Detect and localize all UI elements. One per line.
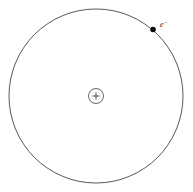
electron-dot-icon: [150, 27, 156, 33]
nucleus-group: [89, 89, 104, 104]
diagram-canvas: e−: [0, 0, 193, 192]
bohr-atom-diagram: e−: [0, 0, 193, 192]
electron-label: e−: [160, 19, 168, 29]
electron-label-superscript: −: [164, 19, 168, 25]
